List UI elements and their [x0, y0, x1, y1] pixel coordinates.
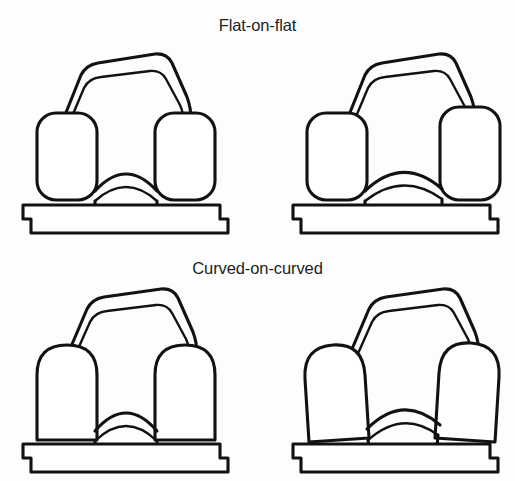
- panel-flat-displaced: [285, 45, 515, 235]
- intercondylar-eminence-lower-arc: [365, 185, 442, 201]
- intercondylar-eminence-upper-arc: [95, 413, 157, 431]
- section-label-flat-on-flat: Flat-on-flat: [0, 16, 515, 35]
- medial-condyle-dome: [305, 345, 369, 442]
- tibial-tray: [23, 205, 228, 233]
- intercondylar-eminence-lower-arc: [95, 426, 157, 441]
- intercondylar-eminence-lower-arc: [95, 187, 157, 201]
- prosthesis-bearing-figure: Flat-on-flat: [0, 0, 515, 481]
- section-label-curved-on-curved: Curved-on-curved: [0, 259, 515, 278]
- medial-condyle-flat: [37, 113, 97, 200]
- tibial-tray: [23, 444, 228, 472]
- intercondylar-eminence-upper-arc: [367, 410, 440, 429]
- tibial-tray: [293, 205, 498, 233]
- lateral-condyle-flat: [440, 107, 500, 200]
- medial-condyle-flat: [307, 113, 367, 200]
- panel-curved-aligned: [15, 283, 245, 473]
- lateral-condyle-dome: [155, 345, 215, 440]
- panel-curved-displaced: [285, 283, 515, 473]
- medial-condyle-dome: [37, 345, 97, 440]
- tibial-tray: [293, 444, 498, 472]
- intercondylar-eminence-lower-arc: [368, 423, 438, 440]
- lateral-condyle-dome: [435, 343, 499, 442]
- panel-flat-aligned: [15, 45, 245, 235]
- section-flat-on-flat: Flat-on-flat: [0, 0, 515, 245]
- section-curved-on-curved: Curved-on-curved: [0, 245, 515, 481]
- intercondylar-eminence-upper-arc: [95, 174, 157, 191]
- lateral-condyle-flat: [155, 113, 215, 200]
- intercondylar-eminence-upper-arc: [365, 172, 442, 191]
